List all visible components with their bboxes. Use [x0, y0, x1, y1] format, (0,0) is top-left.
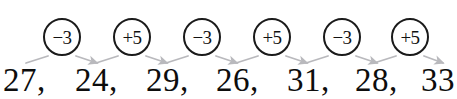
operation-bubble: −3 [43, 18, 81, 56]
sequence-term: 28, [355, 62, 398, 99]
worksheet-figure: The rule used is to add 5 and subtract 3… [0, 0, 457, 99]
operation-bubble-label: −3 [332, 27, 351, 46]
operation-bubble-label: +5 [262, 27, 281, 46]
operation-bubble: −3 [183, 18, 221, 56]
sequence-term: 26, [216, 62, 259, 99]
operation-bubble-label: −3 [52, 27, 71, 46]
operation-bubble: +5 [391, 18, 429, 56]
sequence-term: 31, [287, 62, 330, 99]
sequence-term: 29, [146, 62, 189, 99]
operation-bubble-label: −3 [192, 27, 211, 46]
operation-bubble-label: +5 [400, 27, 419, 46]
operation-bubble: +5 [113, 18, 151, 56]
sequence-term: 33 [421, 62, 455, 99]
operation-bubble: −3 [323, 18, 361, 56]
sequence-term: 24, [75, 62, 118, 99]
number-sequence-row: 27,24,29,26,31,28,33 [0, 62, 457, 99]
operation-bubble-label: +5 [122, 27, 141, 46]
sequence-term: 27, [3, 62, 46, 99]
operation-bubble: +5 [253, 18, 291, 56]
